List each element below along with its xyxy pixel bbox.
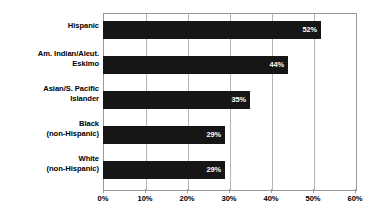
bar[interactable]: 44% <box>103 56 288 74</box>
bar-row[interactable]: 29% <box>103 161 225 179</box>
bar-value-label: 44% <box>270 61 285 68</box>
category-label-asian-s-pacific-islander: Asian/S. Pacific Islander <box>0 84 99 103</box>
category-label-line1: Am. Indian/Aleut. <box>38 49 99 58</box>
category-label-white-non-hispanic: White (non-Hispanic) <box>0 154 99 173</box>
category-axis-labels: Hispanic Am. Indian/Aleut. Eskimo Asian/… <box>0 13 99 189</box>
bar-row[interactable]: 29% <box>103 126 225 144</box>
category-label-black-non-hispanic: Black (non-Hispanic) <box>0 119 99 138</box>
x-tick-mark <box>145 189 146 193</box>
bar[interactable]: 52% <box>103 21 321 39</box>
category-label-line1: Asian/S. Pacific <box>43 84 99 93</box>
bar[interactable]: 29% <box>103 126 225 144</box>
x-tick-label: 60% <box>335 194 375 204</box>
category-label-line1: Hispanic <box>68 21 99 30</box>
bar-row[interactable]: 44% <box>103 56 288 74</box>
bar-value-label: 35% <box>232 96 247 103</box>
category-label-line2: (non-Hispanic) <box>0 164 99 174</box>
x-tick-label: 0% <box>83 194 123 204</box>
category-label-line1: White <box>79 154 99 163</box>
bar-value-label: 52% <box>303 26 318 33</box>
x-tick-mark <box>103 189 104 193</box>
x-tick-label: 20% <box>167 194 207 204</box>
bar-value-label: 29% <box>207 166 222 173</box>
x-tick-mark <box>229 189 230 193</box>
x-tick-label: 30% <box>209 194 249 204</box>
bar-row[interactable]: 52% <box>103 21 321 39</box>
x-tick-mark <box>271 189 272 193</box>
x-tick-label: 50% <box>293 194 333 204</box>
category-label-line1: Black <box>79 119 99 128</box>
category-label-am-indian-aleut-eskimo: Am. Indian/Aleut. Eskimo <box>0 49 99 68</box>
x-tick-mark <box>355 189 356 193</box>
bar[interactable]: 35% <box>103 91 250 109</box>
category-label-line2: Eskimo <box>0 59 99 69</box>
category-label-line2: Islander <box>0 94 99 104</box>
bars-layer: 52%44%35%29%29% <box>103 13 355 189</box>
bar-row[interactable]: 35% <box>103 91 250 109</box>
x-tick-mark <box>187 189 188 193</box>
x-tick-label: 10% <box>125 194 165 204</box>
bar-value-label: 29% <box>207 131 222 138</box>
x-axis: 0%10%20%30%40%50%60% <box>103 189 355 215</box>
x-tick-label: 40% <box>251 194 291 204</box>
x-tick-mark <box>313 189 314 193</box>
category-label-hispanic: Hispanic <box>0 21 99 31</box>
bar[interactable]: 29% <box>103 161 225 179</box>
bar-chart: Hispanic Am. Indian/Aleut. Eskimo Asian/… <box>0 0 381 217</box>
category-label-line2: (non-Hispanic) <box>0 129 99 139</box>
